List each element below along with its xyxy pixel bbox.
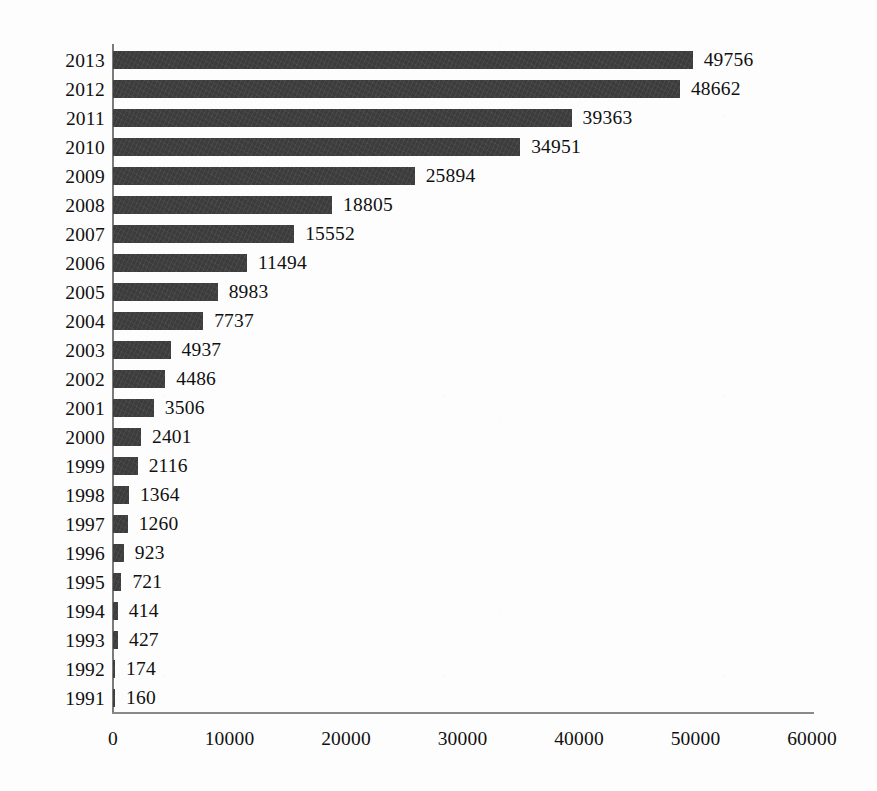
bar-value-label: 1364 [140, 480, 180, 509]
bar-value-label: 1260 [139, 509, 179, 538]
bar-row: 11494 [113, 249, 812, 278]
category-label: 2007 [5, 220, 105, 249]
bar [113, 51, 693, 69]
bar-value-label: 2401 [152, 422, 192, 451]
x-tick-label: 20000 [321, 722, 371, 756]
bar-row: 8983 [113, 278, 812, 307]
plot-area: 4975648662393633495125894188051555211494… [113, 46, 812, 712]
bar [113, 399, 154, 417]
bar-value-label: 160 [126, 683, 156, 712]
bar-row: 2116 [113, 452, 812, 481]
bar-row: 3506 [113, 394, 812, 423]
bar-row: 414 [113, 597, 812, 626]
bar [113, 457, 138, 475]
bar [113, 515, 128, 533]
bar-row: 174 [113, 655, 812, 684]
category-label: 1992 [5, 655, 105, 684]
bar-value-label: 174 [126, 654, 156, 683]
category-label: 2003 [5, 336, 105, 365]
bar-row: 160 [113, 684, 812, 713]
category-label: 2000 [5, 423, 105, 452]
bar [113, 486, 129, 504]
bar-value-label: 2116 [149, 451, 188, 480]
x-tick-label: 0 [108, 722, 118, 756]
category-label: 2008 [5, 191, 105, 220]
bar-row: 25894 [113, 162, 812, 191]
category-label: 1993 [5, 626, 105, 655]
bar-row: 721 [113, 568, 812, 597]
bar-row: 427 [113, 626, 812, 655]
x-tick-label: 50000 [671, 722, 721, 756]
bar [113, 689, 115, 707]
x-tick-label: 40000 [554, 722, 604, 756]
bar-row: 34951 [113, 133, 812, 162]
bar-value-label: 49756 [704, 45, 754, 74]
bar [113, 109, 572, 127]
bar-row: 1260 [113, 510, 812, 539]
category-label: 2002 [5, 365, 105, 394]
category-label: 2011 [5, 104, 105, 133]
bar-row: 18805 [113, 191, 812, 220]
category-label: 2006 [5, 249, 105, 278]
bar-row: 4486 [113, 365, 812, 394]
bar [113, 283, 218, 301]
bar [113, 370, 165, 388]
category-label: 1995 [5, 568, 105, 597]
bar-row: 2401 [113, 423, 812, 452]
bar [113, 138, 520, 156]
bar [113, 428, 141, 446]
category-label: 1999 [5, 452, 105, 481]
bar-row: 7737 [113, 307, 812, 336]
bar-value-label: 414 [129, 596, 159, 625]
y-axis-category-labels: 2013201220112010200920082007200620052004… [0, 46, 105, 712]
bar [113, 254, 247, 272]
bar-value-label: 7737 [214, 306, 254, 335]
bar-chart: 2013201220112010200920082007200620052004… [0, 0, 877, 791]
bar-row: 49756 [113, 46, 812, 75]
bar [113, 167, 415, 185]
category-label: 2004 [5, 307, 105, 336]
bar-row: 48662 [113, 75, 812, 104]
bar [113, 544, 124, 562]
bar-row: 39363 [113, 104, 812, 133]
bar-row: 4937 [113, 336, 812, 365]
bar [113, 196, 332, 214]
bar [113, 631, 118, 649]
bar-row: 923 [113, 539, 812, 568]
bar-value-label: 3506 [165, 393, 205, 422]
bar-value-label: 25894 [426, 161, 476, 190]
x-tick-label: 30000 [438, 722, 488, 756]
bar [113, 312, 203, 330]
category-label: 1991 [5, 684, 105, 713]
bar-value-label: 427 [129, 625, 159, 654]
category-label: 1994 [5, 597, 105, 626]
x-tick-label: 60000 [787, 722, 837, 756]
bar-value-label: 4486 [176, 364, 216, 393]
category-label: 1997 [5, 510, 105, 539]
bar-value-label: 721 [132, 567, 162, 596]
bar-row: 1364 [113, 481, 812, 510]
bar [113, 602, 118, 620]
bar-value-label: 39363 [583, 103, 633, 132]
bar-row: 15552 [113, 220, 812, 249]
category-label: 1998 [5, 481, 105, 510]
bar [113, 573, 121, 591]
bar [113, 80, 680, 98]
bar-value-label: 8983 [229, 277, 269, 306]
bar-value-label: 34951 [531, 132, 581, 161]
bar [113, 225, 294, 243]
category-label: 2012 [5, 75, 105, 104]
bar [113, 660, 115, 678]
category-label: 2009 [5, 162, 105, 191]
category-label: 2010 [5, 133, 105, 162]
bar-value-label: 15552 [305, 219, 355, 248]
category-label: 2005 [5, 278, 105, 307]
bar-value-label: 11494 [258, 248, 307, 277]
bar-value-label: 18805 [343, 190, 393, 219]
category-label: 1996 [5, 539, 105, 568]
x-tick-label: 10000 [205, 722, 255, 756]
bar-value-label: 48662 [691, 74, 741, 103]
category-label: 2013 [5, 46, 105, 75]
category-label: 2001 [5, 394, 105, 423]
bar [113, 341, 171, 359]
